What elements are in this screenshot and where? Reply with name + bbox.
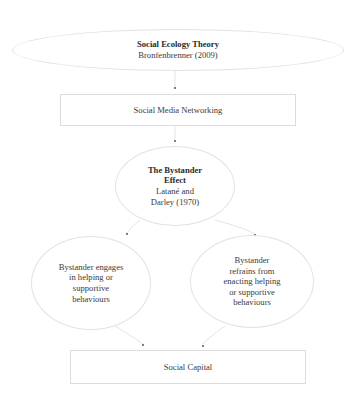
theory-title: Social Ecology Theory [137,39,219,50]
refrains-line: refrains from [229,266,274,277]
social-media-networking-node: Social Media Networking [60,94,296,126]
social-media-label: Social Media Networking [134,105,223,116]
engages-line: supportive [73,283,109,294]
bystander-citation-line1: Latané and [156,186,194,197]
refrains-line: Bystander [235,255,270,266]
bystander-refrains-node: Bystander refrains from enacting helping… [190,235,314,328]
theory-citation: Bronfenbrenner (2009) [138,50,217,61]
refrains-line: enacting helping [223,276,280,287]
bystander-citation-line2: Darley (1970) [151,197,199,208]
engages-line: in helping or [69,272,113,283]
edge-refrains-to-social-capital [203,326,225,344]
bystander-effect-node: The Bystander Effect Latané and Darley (… [115,146,235,226]
edge-engages-to-social-capital [115,326,143,344]
bystander-title-line1: The Bystander [148,165,202,176]
social-capital-label: Social Capital [164,362,212,373]
bystander-title-line2: Effect [164,175,186,186]
arrowhead-bystander [174,140,176,142]
refrains-line: or supportive [229,287,275,298]
engages-line: Bystander engages [59,262,124,273]
social-ecology-theory-node: Social Ecology Theory Bronfenbrenner (20… [12,29,344,71]
arrowhead-engages [126,233,128,235]
bystander-engages-node: Bystander engages in helping or supporti… [31,236,151,330]
arrowhead-social-media [174,87,176,89]
social-capital-node: Social Capital [70,350,306,384]
edge-bystander-to-refrains [215,220,255,234]
edge-bystander-to-engages [127,220,140,233]
engages-line: behaviours [72,294,110,305]
arrowhead-social-capital-left [142,344,144,346]
arrowhead-social-capital-right [202,345,204,347]
refrains-line: behaviours [233,297,271,308]
